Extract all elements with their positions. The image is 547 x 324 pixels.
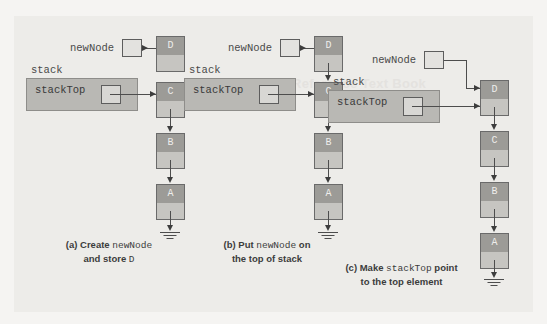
- panel-a-node-B-value: B: [157, 134, 184, 153]
- panel-b-link-C-to-B-head: [325, 126, 331, 132]
- panel-a-caption-line2-pre: and store: [83, 253, 128, 264]
- panel-c-link-C-to-B-head: [491, 175, 497, 181]
- panel-c-caption-line1-post: point: [432, 262, 458, 273]
- panel-b-stacktop-label: stackTop: [193, 84, 243, 96]
- panel-b-newnode-arrow-head: [300, 45, 306, 51]
- panel-c-newnode-pointer-box: [424, 51, 444, 69]
- panel-a-node-D-value: D: [157, 37, 184, 56]
- panel-c-node-D-value: D: [481, 81, 508, 100]
- panel-c-stack-label: stack: [333, 76, 365, 88]
- panel-c-node-A-value: A: [481, 234, 508, 253]
- panel-c-newnode-arrow-segment-v: [466, 60, 467, 88]
- panel-a-newnode-label: newNode: [70, 42, 114, 54]
- panel-c-link-D-to-C-head: [491, 124, 497, 130]
- panel-b-caption-line1-pre: (b) Put: [224, 239, 257, 250]
- panel-c-caption-line1: (c) Make stackTop point: [314, 261, 489, 275]
- panel-a-caption: (a) Create newNode and store D: [24, 238, 194, 266]
- panel-c-link-B-to-A-head: [491, 226, 497, 232]
- panel-c-link-A-to-null-head: [491, 272, 497, 278]
- panel-a-link-C-to-B-head: [167, 126, 173, 132]
- panel-c-newnode-label: newNode: [372, 54, 416, 66]
- panel-b-caption-line1-mono: newNode: [256, 240, 296, 251]
- panel-b-caption-line2-pre: the top of stack: [232, 253, 302, 264]
- panel-b-link-B-to-A-head: [325, 177, 331, 183]
- panel-b-link-A-to-null-head: [325, 225, 331, 231]
- panel-a-stacktop-label: stackTop: [35, 84, 85, 96]
- panel-c-caption: (c) Make stackTop point to the top eleme…: [314, 261, 489, 289]
- panel-a-node-D: D: [156, 36, 185, 72]
- panel-b-caption-line1: (b) Put newNode on: [182, 238, 352, 252]
- panel-a-node-D-link: [157, 55, 184, 71]
- panel-a-node-A-value: A: [157, 185, 184, 204]
- panel-b-stack-label: stack: [189, 64, 221, 76]
- panel-c-node-C-value: C: [481, 132, 508, 151]
- panel-a-caption-line1-mono: newNode: [112, 240, 152, 251]
- panel-b-node-D-value: D: [315, 37, 342, 56]
- panel-c-stacktop-label: stackTop: [337, 96, 387, 108]
- panel-a-stack-label: stack: [31, 64, 63, 76]
- panel-b-node-B-value: B: [315, 134, 342, 153]
- panel-a-node-C-value: C: [157, 83, 184, 102]
- panel-b-newnode-label: newNode: [228, 42, 272, 54]
- panel-c-stacktop-arrow-line: [412, 106, 480, 107]
- panel-a-newnode-pointer-box: [122, 39, 142, 57]
- panel-a-caption-line2: and store D: [24, 252, 194, 266]
- panel-a-link-B-to-A-head: [167, 177, 173, 183]
- panel-b-link-D-to-C-head: [325, 75, 331, 81]
- panel-b-caption-line1-post: on: [296, 239, 310, 250]
- panel-c-caption-line1-pre: (c) Make: [345, 262, 386, 273]
- panel-c-newnode-arrow-segment-h: [444, 60, 466, 61]
- figure-canvas: Reference Text Book newNode stack stackT…: [14, 16, 533, 312]
- panel-a-link-A-to-null-head: [167, 225, 173, 231]
- panel-c-caption-line1-mono: stackTop: [386, 263, 432, 274]
- panel-c-node-B-value: B: [481, 183, 508, 202]
- panel-c-caption-line2-pre: to the top element: [361, 276, 443, 287]
- panel-a-caption-line1-pre: (a) Create: [66, 239, 112, 250]
- panel-a-caption-line2-mono: D: [129, 254, 135, 265]
- panel-c-caption-line2: to the top element: [314, 275, 489, 289]
- panel-b-newnode-pointer-box: [280, 39, 300, 57]
- panel-a-newnode-arrow-head: [142, 45, 148, 51]
- panel-a-caption-line1: (a) Create newNode: [24, 238, 194, 252]
- panel-b-node-A-value: A: [315, 185, 342, 204]
